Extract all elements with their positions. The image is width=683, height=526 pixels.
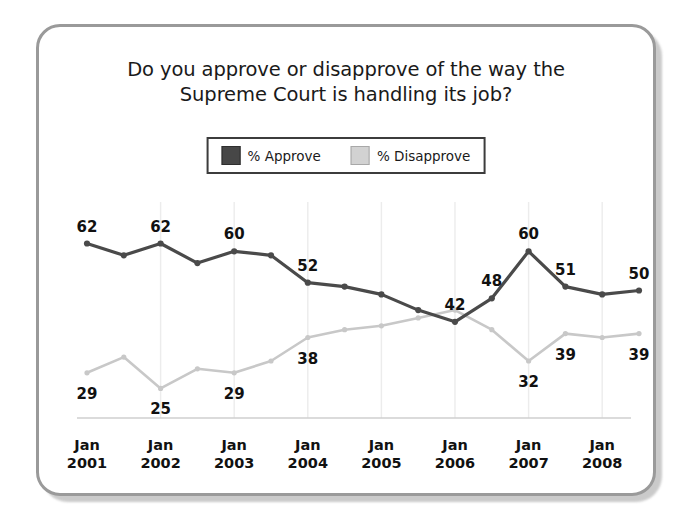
x-tick-month: Jan xyxy=(67,437,107,455)
data-point[interactable] xyxy=(562,284,568,290)
page-title: Do you approve or disapprove of the way … xyxy=(39,57,653,107)
x-tick-year: 2006 xyxy=(435,455,475,473)
data-point[interactable] xyxy=(342,284,348,290)
data-label: 39 xyxy=(555,346,576,364)
data-point[interactable] xyxy=(415,307,421,313)
chart-screenshot: Do you approve or disapprove of the way … xyxy=(0,0,683,526)
series-line-approve xyxy=(87,244,639,322)
x-tick-year: 2004 xyxy=(288,455,328,473)
x-tick-month: Jan xyxy=(582,437,622,455)
legend-item-disapprove[interactable]: % Disapprove xyxy=(351,146,471,165)
x-axis-tick: Jan2007 xyxy=(508,437,548,472)
x-tick-month: Jan xyxy=(288,437,328,455)
title-line-1: Do you approve or disapprove of the way … xyxy=(39,57,653,82)
x-tick-year: 2008 xyxy=(582,455,622,473)
data-label: 52 xyxy=(297,257,318,275)
data-point[interactable] xyxy=(636,331,641,336)
data-point[interactable] xyxy=(158,386,163,391)
data-point[interactable] xyxy=(526,248,532,254)
data-label: 32 xyxy=(518,373,539,391)
data-label: 60 xyxy=(224,225,245,243)
data-label: 38 xyxy=(297,350,318,368)
data-point[interactable] xyxy=(489,295,495,301)
x-tick-year: 2001 xyxy=(67,455,107,473)
data-point[interactable] xyxy=(121,355,126,360)
data-point[interactable] xyxy=(452,319,458,325)
data-point[interactable] xyxy=(342,327,347,332)
data-label: 60 xyxy=(518,225,539,243)
x-tick-month: Jan xyxy=(214,437,254,455)
legend-item-approve[interactable]: % Approve xyxy=(222,146,321,165)
x-axis-tick: Jan2004 xyxy=(288,437,328,472)
data-point[interactable] xyxy=(84,240,90,246)
data-label: 29 xyxy=(77,385,98,403)
data-point[interactable] xyxy=(636,287,642,293)
x-axis-labels: Jan2001Jan2002Jan2003Jan2004Jan2005Jan20… xyxy=(39,437,659,497)
x-axis-tick: Jan2006 xyxy=(435,437,475,472)
chart-legend: % Approve % Disapprove xyxy=(207,137,486,174)
chart-card: Do you approve or disapprove of the way … xyxy=(36,24,656,496)
legend-label-disapprove: % Disapprove xyxy=(377,148,471,164)
data-point[interactable] xyxy=(158,240,164,246)
data-point[interactable] xyxy=(268,252,274,258)
title-line-2: Supreme Court is handling its job? xyxy=(39,82,653,107)
x-tick-year: 2002 xyxy=(140,455,180,473)
data-point[interactable] xyxy=(305,335,310,340)
plot-area: 62626052484260515029252938323939 xyxy=(39,202,659,432)
legend-swatch-disapprove-icon xyxy=(351,146,370,165)
x-tick-month: Jan xyxy=(361,437,401,455)
data-point[interactable] xyxy=(379,323,384,328)
x-tick-month: Jan xyxy=(435,437,475,455)
x-axis-tick: Jan2001 xyxy=(67,437,107,472)
x-tick-year: 2007 xyxy=(508,455,548,473)
data-point[interactable] xyxy=(195,366,200,371)
data-point[interactable] xyxy=(563,331,568,336)
legend-swatch-approve-icon xyxy=(222,146,241,165)
data-point[interactable] xyxy=(231,248,237,254)
data-point[interactable] xyxy=(416,315,421,320)
data-label: 62 xyxy=(77,218,98,236)
x-tick-year: 2003 xyxy=(214,455,254,473)
data-label: 50 xyxy=(629,265,650,283)
data-point[interactable] xyxy=(489,327,494,332)
data-point[interactable] xyxy=(121,252,127,258)
data-label: 25 xyxy=(150,400,171,418)
line-chart-svg: 62626052484260515029252938323939 xyxy=(39,202,659,432)
data-point[interactable] xyxy=(305,280,311,286)
data-point[interactable] xyxy=(378,291,384,297)
data-point[interactable] xyxy=(599,291,605,297)
data-label: 51 xyxy=(555,261,576,279)
data-point[interactable] xyxy=(84,370,89,375)
data-label: 62 xyxy=(150,218,171,236)
x-tick-month: Jan xyxy=(508,437,548,455)
data-label: 29 xyxy=(224,385,245,403)
x-axis-tick: Jan2003 xyxy=(214,437,254,472)
data-point[interactable] xyxy=(268,358,273,363)
x-tick-month: Jan xyxy=(140,437,180,455)
data-point[interactable] xyxy=(526,358,531,363)
legend-label-approve: % Approve xyxy=(248,148,321,164)
data-label: 39 xyxy=(629,346,650,364)
data-label: 42 xyxy=(445,296,466,314)
x-axis-tick: Jan2005 xyxy=(361,437,401,472)
x-tick-year: 2005 xyxy=(361,455,401,473)
data-point[interactable] xyxy=(600,335,605,340)
data-point[interactable] xyxy=(232,370,237,375)
x-axis-tick: Jan2002 xyxy=(140,437,180,472)
x-axis-tick: Jan2008 xyxy=(582,437,622,472)
data-label: 48 xyxy=(481,272,502,290)
data-point[interactable] xyxy=(194,260,200,266)
